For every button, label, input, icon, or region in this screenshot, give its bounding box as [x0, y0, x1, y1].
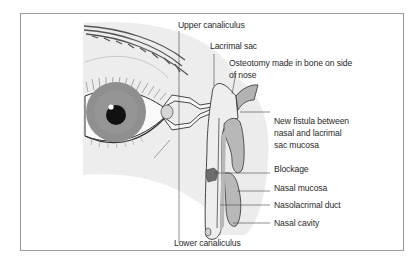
- label-lower-canaliculus: Lower canaliculus: [174, 238, 241, 249]
- label-blockage: Blockage: [274, 164, 309, 175]
- label-nasal-mucosa: Nasal mucosa: [274, 183, 327, 194]
- lower-punctum-ending: [205, 228, 211, 236]
- blockage: [206, 168, 218, 182]
- pupil-highlight: [108, 104, 113, 109]
- label-osteotomy-line1: Osteotomy made in bone on side: [229, 58, 352, 69]
- label-nasolacrimal-duct: Nasolacrimal duct: [274, 200, 341, 211]
- label-new-fistula-line1: New fistula between: [274, 116, 349, 127]
- lacrimal-anatomy-illustration: [0, 0, 418, 268]
- label-upper-canaliculus: Upper canaliculus: [178, 20, 245, 31]
- label-lacrimal-sac: Lacrimal sac: [210, 41, 257, 52]
- caruncle: [161, 105, 173, 119]
- label-osteotomy-line2: of nose: [229, 70, 257, 81]
- label-nasal-cavity: Nasal cavity: [274, 218, 319, 229]
- label-new-fistula-line2: nasal and lacrimal: [274, 128, 341, 139]
- label-new-fistula-line3: sac mucosa: [274, 140, 319, 151]
